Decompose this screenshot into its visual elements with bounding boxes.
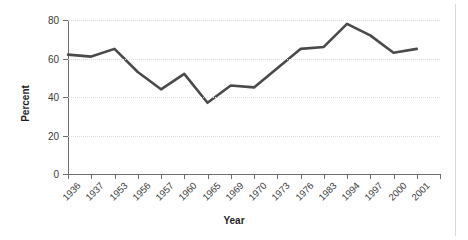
x-tick-label-1983: 1983 [316, 180, 339, 203]
y-tick-mark [63, 97, 68, 98]
series-polyline [68, 24, 417, 103]
x-tick-label-2001: 2001 [409, 180, 432, 203]
line-chart: Percent 020406080 1936193719531956195719… [0, 0, 468, 240]
x-tick-label-1973: 1973 [269, 180, 292, 203]
x-tick-label-1957: 1957 [153, 180, 176, 203]
y-axis-title: Percent [20, 85, 31, 122]
y-tick-mark [63, 20, 68, 21]
y-tick-label: 0 [53, 169, 59, 180]
x-axis-title: Year [0, 215, 468, 226]
y-tick-mark [63, 59, 68, 60]
x-tick-mark [440, 174, 441, 179]
x-tick-label-1994: 1994 [339, 180, 362, 203]
x-tick-mark [91, 174, 92, 179]
gridline-80 [68, 20, 440, 21]
plot-area [68, 20, 440, 174]
x-tick-mark [324, 174, 325, 179]
x-tick-mark [277, 174, 278, 179]
x-tick-label-1965: 1965 [200, 180, 223, 203]
x-tick-mark [68, 174, 69, 179]
x-tick-label-1937: 1937 [83, 180, 106, 203]
x-tick-mark [115, 174, 116, 179]
x-tick-mark [184, 174, 185, 179]
x-tick-mark [347, 174, 348, 179]
x-tick-label-1976: 1976 [293, 180, 316, 203]
x-tick-mark [208, 174, 209, 179]
y-tick-label: 40 [48, 92, 59, 103]
y-tick-label: 60 [48, 53, 59, 64]
y-tick-label: 80 [48, 15, 59, 26]
x-tick-mark [254, 174, 255, 179]
x-tick-label-1960: 1960 [176, 180, 199, 203]
gridline-20 [68, 136, 440, 137]
page-edge-rule [455, 4, 456, 236]
x-tick-mark [417, 174, 418, 179]
x-tick-label-2000: 2000 [386, 180, 409, 203]
x-tick-mark [231, 174, 232, 179]
x-tick-label-1970: 1970 [246, 180, 269, 203]
x-tick-label-1997: 1997 [362, 180, 385, 203]
gridline-40 [68, 97, 440, 98]
x-tick-mark [394, 174, 395, 179]
y-tick-label: 20 [48, 130, 59, 141]
x-tick-label-1936: 1936 [60, 180, 83, 203]
x-tick-mark [370, 174, 371, 179]
x-axis-tick-labels: 1936193719531956195719601965196919701973… [68, 180, 440, 220]
y-tick-mark [63, 136, 68, 137]
gridline-60 [68, 59, 440, 60]
x-tick-label-1953: 1953 [107, 180, 130, 203]
x-tick-mark [138, 174, 139, 179]
x-tick-mark [161, 174, 162, 179]
x-tick-label-1969: 1969 [223, 180, 246, 203]
y-axis-title-holder: Percent [30, 20, 44, 174]
x-tick-mark [301, 174, 302, 179]
x-tick-label-1956: 1956 [130, 180, 153, 203]
